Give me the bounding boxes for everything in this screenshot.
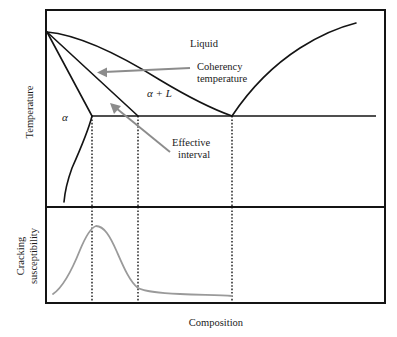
label-coherency-line1: Coherency <box>197 61 243 72</box>
axis-label-cracking-line2: susceptibility <box>28 227 39 284</box>
bottom-panel-frame <box>46 207 385 303</box>
effective-interval-arrow <box>110 103 170 152</box>
solvus-curve <box>64 116 92 202</box>
phase-diagram-figure: Liquid Coherency temperature α + L α Eff… <box>0 0 397 337</box>
solidus-curve <box>47 32 92 116</box>
label-alpha-phase: α <box>62 111 68 123</box>
label-alpha-plus-liquid: α + L <box>147 87 172 99</box>
figure-canvas: Liquid Coherency temperature α + L α Eff… <box>0 0 397 337</box>
label-liquid: Liquid <box>190 38 219 49</box>
axis-label-temperature: Temperature <box>24 85 35 138</box>
label-coherency-line2: temperature <box>197 73 247 84</box>
axis-label-cracking-line1: Cracking <box>15 236 26 275</box>
liquidus-right-curve <box>232 23 356 116</box>
coherency-arrow <box>97 68 190 78</box>
axis-label-composition: Composition <box>189 317 244 328</box>
label-effective-line1: Effective <box>172 137 211 148</box>
label-effective-line2: interval <box>178 149 210 160</box>
cracking-susceptibility-curve <box>53 226 232 296</box>
